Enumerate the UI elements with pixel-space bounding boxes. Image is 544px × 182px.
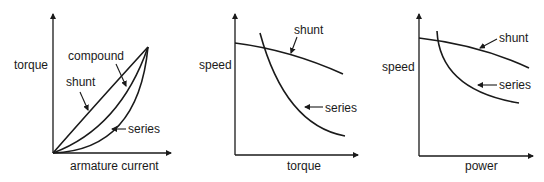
- x-axis-label: power: [465, 159, 498, 173]
- compound-label: compound: [68, 49, 124, 63]
- x-axis-label: armature current: [70, 159, 159, 173]
- series-label: series: [128, 122, 160, 136]
- y-axis-label: speed: [382, 60, 415, 74]
- x-axis-label: torque: [287, 159, 321, 173]
- shunt-pointer-arrow-icon: [480, 39, 497, 48]
- y-axis-label: torque: [14, 58, 48, 72]
- shunt-pointer-arrow-icon: [291, 37, 297, 53]
- shunt-label: shunt: [66, 75, 96, 89]
- chart-torque-vs-armature-current: torque compound shunt series armature cu…: [14, 14, 171, 173]
- chart-speed-vs-power: shunt speed series power: [382, 14, 533, 173]
- series-label: series: [325, 101, 357, 115]
- series-label: series: [499, 78, 531, 92]
- motor-characteristics-diagram: torque compound shunt series armature cu…: [0, 0, 544, 182]
- y-axis-label: speed: [199, 58, 232, 72]
- chart-speed-vs-torque: shunt speed series torque: [199, 14, 358, 173]
- compound-pointer-arrow-icon: [116, 64, 126, 86]
- shunt-label: shunt: [294, 23, 324, 37]
- shunt-curve: [235, 43, 343, 74]
- series-curve: [260, 33, 345, 136]
- shunt-pointer-arrow-icon: [80, 92, 88, 110]
- shunt-label: shunt: [499, 31, 529, 45]
